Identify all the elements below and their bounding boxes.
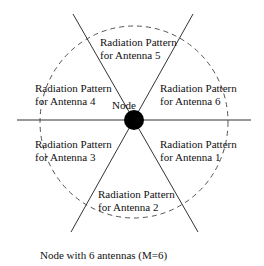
antenna-2-label-line1: Radiation Pattern [98, 188, 175, 201]
antenna-5-label-line2: for Antenna 5 [100, 49, 177, 62]
antenna-3-label-line1: Radiation Pattern [35, 138, 112, 151]
antenna-5-label-line1: Radiation Pattern [100, 36, 177, 49]
antenna-6-label-line2: for Antenna 6 [160, 95, 237, 108]
antenna-1-label-line2: for Antenna 1 [160, 151, 237, 164]
antenna-3-label-line2: for Antenna 3 [35, 151, 112, 164]
antenna-6-label: Radiation Pattern for Antenna 6 [160, 82, 237, 108]
antenna-5-label: Radiation Pattern for Antenna 5 [100, 36, 177, 62]
antenna-2-label: Radiation Pattern for Antenna 2 [98, 188, 175, 214]
antenna-1-label: Radiation Pattern for Antenna 1 [160, 138, 237, 164]
antenna-3-label: Radiation Pattern for Antenna 3 [35, 138, 112, 164]
node-icon [124, 110, 144, 130]
node-label: Node [112, 99, 136, 112]
antenna-4-label-line1: Radiation Pattern [35, 82, 112, 95]
antenna-4-label: Radiation Pattern for Antenna 4 [35, 82, 112, 108]
diagram-caption: Node with 6 antennas (M=6) [40, 249, 167, 261]
antenna-2-label-line2: for Antenna 2 [98, 201, 175, 214]
antenna-6-label-line1: Radiation Pattern [160, 82, 237, 95]
antenna-4-label-line2: for Antenna 4 [35, 95, 112, 108]
antenna-1-label-line1: Radiation Pattern [160, 138, 237, 151]
